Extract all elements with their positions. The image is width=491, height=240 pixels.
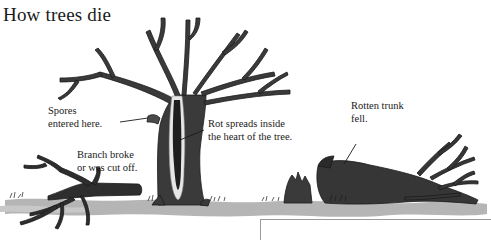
tree-stump bbox=[284, 172, 312, 203]
label-trunk-line2: fell. bbox=[351, 112, 404, 125]
frame-border bbox=[260, 219, 491, 240]
label-branch-line2: or was cut off. bbox=[77, 161, 137, 174]
label-branch-line1: Branch broke bbox=[77, 148, 137, 161]
label-rot-line1: Rot spreads inside bbox=[208, 117, 292, 130]
label-rot-line2: the heart of the tree. bbox=[208, 130, 292, 143]
label-spores-line2: entered here. bbox=[48, 117, 102, 130]
label-spores: Spores entered here. bbox=[48, 104, 102, 130]
label-trunk: Rotten trunk fell. bbox=[351, 99, 404, 125]
label-trunk-line1: Rotten trunk bbox=[351, 99, 404, 112]
fallen-rotten-trunk bbox=[317, 134, 478, 204]
label-rot: Rot spreads inside the heart of the tree… bbox=[208, 117, 292, 143]
leader-spores bbox=[120, 118, 148, 122]
label-branch: Branch broke or was cut off. bbox=[77, 148, 137, 174]
label-spores-line1: Spores bbox=[48, 104, 102, 117]
